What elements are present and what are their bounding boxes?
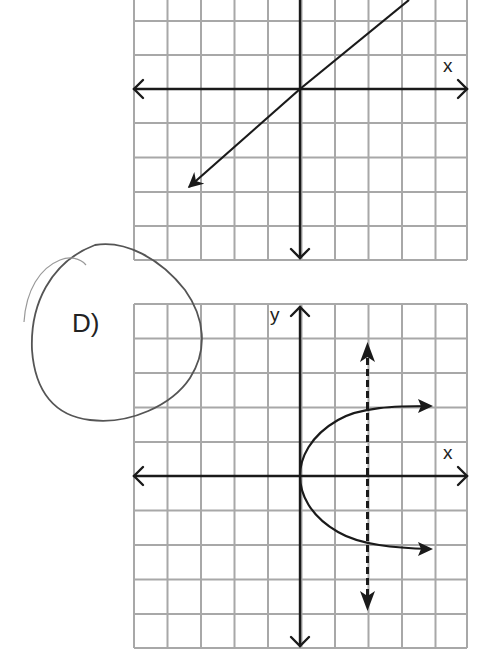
worksheet-canvas: x	[0, 0, 491, 656]
top-graph: x	[134, 0, 467, 260]
hand-drawn-circle	[32, 244, 202, 421]
option-d-label: D)	[72, 308, 99, 338]
bottom-x-axis-label: x	[443, 442, 453, 463]
top-linear-graph-arrow	[189, 89, 300, 187]
bottom-y-axis-label: y	[270, 304, 280, 325]
top-linear-graph	[300, 0, 409, 89]
parabola-arrowheads	[418, 399, 433, 556]
sideways-parabola	[300, 406, 430, 549]
bottom-graph: x y	[134, 304, 467, 648]
top-y-axis	[291, 0, 309, 258]
top-x-axis-label: x	[443, 55, 453, 76]
option-d[interactable]: D)	[24, 244, 202, 421]
